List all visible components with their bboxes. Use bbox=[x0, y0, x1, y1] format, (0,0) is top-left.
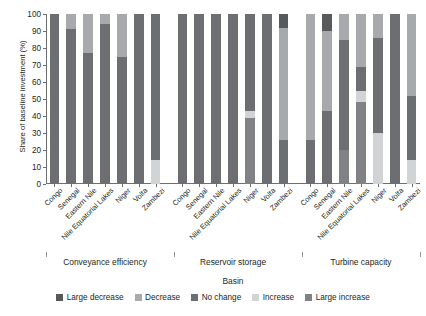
bar-segment bbox=[279, 28, 289, 140]
stacked-bar bbox=[306, 14, 316, 184]
bar-segment bbox=[117, 14, 127, 57]
legend-swatch-icon bbox=[56, 294, 63, 301]
legend-swatch-icon bbox=[191, 294, 198, 301]
bar-segment bbox=[306, 140, 316, 184]
legend-label: No change bbox=[202, 293, 242, 302]
x-axis-category-labels: CongoSenegalEastern NileNile Equatorial … bbox=[46, 186, 420, 252]
group-separator bbox=[420, 252, 421, 257]
y-tick-mark bbox=[43, 31, 46, 32]
legend-item: Large increase bbox=[305, 293, 370, 302]
legend-swatch-icon bbox=[305, 294, 312, 301]
stacked-bar bbox=[178, 14, 188, 184]
bar-segment bbox=[279, 140, 289, 184]
bar-segment bbox=[373, 14, 383, 38]
group-label: Reservoir storage bbox=[174, 257, 292, 267]
stacked-bar bbox=[339, 14, 349, 184]
stacked-bar bbox=[117, 14, 127, 184]
legend-label: Decrease bbox=[145, 293, 180, 302]
bar-segment bbox=[245, 14, 255, 111]
stacked-bar bbox=[262, 14, 272, 184]
y-tick-mark bbox=[43, 48, 46, 49]
bar-segment bbox=[356, 102, 366, 184]
bar-segment bbox=[50, 14, 60, 184]
y-tick-mark bbox=[43, 65, 46, 66]
stacked-bar bbox=[194, 14, 204, 184]
stacked-bar bbox=[356, 14, 366, 184]
bar-segment bbox=[211, 14, 221, 184]
stacked-bar bbox=[50, 14, 60, 184]
legend-label: Large increase bbox=[316, 293, 370, 302]
y-tick-mark bbox=[43, 99, 46, 100]
bar-segment bbox=[151, 14, 161, 160]
stacked-bar-chart: Share of baseline investment (%) 0102030… bbox=[0, 0, 426, 316]
bar-segment bbox=[228, 14, 238, 184]
chart-legend: Large decreaseDecreaseNo changeIncreaseL… bbox=[0, 293, 426, 302]
bar-segment bbox=[356, 67, 366, 91]
bar-segment bbox=[66, 29, 76, 184]
group-label: Turbine capacity bbox=[302, 257, 420, 267]
stacked-bar bbox=[66, 14, 76, 184]
legend-item: Increase bbox=[252, 293, 294, 302]
bar-segment bbox=[407, 96, 417, 161]
stacked-bar bbox=[322, 14, 332, 184]
stacked-bar bbox=[279, 14, 289, 184]
legend-swatch-icon bbox=[135, 294, 142, 301]
bar-segment bbox=[373, 38, 383, 133]
bar-segment bbox=[245, 111, 255, 118]
x-tick-label: Niger bbox=[369, 186, 388, 205]
legend-label: Large decrease bbox=[67, 293, 124, 302]
legend-item: Decrease bbox=[135, 293, 181, 302]
bar-segment bbox=[245, 118, 255, 184]
stacked-bar bbox=[151, 14, 161, 184]
bar-segment bbox=[339, 150, 349, 184]
y-tick-mark bbox=[43, 150, 46, 151]
legend-swatch-icon bbox=[252, 294, 259, 301]
bar-segment bbox=[279, 14, 289, 28]
bar-segment bbox=[100, 14, 110, 24]
bar-segment bbox=[178, 14, 188, 184]
group-label: Conveyance efficiency bbox=[46, 257, 164, 267]
stacked-bar bbox=[83, 14, 93, 184]
bar-segment bbox=[339, 40, 349, 151]
y-axis-title: Share of baseline investment (%) bbox=[18, 17, 27, 177]
bar-segment bbox=[117, 57, 127, 185]
plot-area: 0102030405060708090100 bbox=[46, 14, 420, 184]
bar-segment bbox=[151, 160, 161, 184]
x-axis-group-labels: Conveyance efficiencyReservoir storageTu… bbox=[46, 252, 420, 268]
legend-item: No change bbox=[191, 293, 241, 302]
bar-segment bbox=[407, 160, 417, 184]
stacked-bar bbox=[100, 14, 110, 184]
bar-segment bbox=[356, 14, 366, 67]
bar-segment bbox=[134, 14, 144, 184]
stacked-bar bbox=[407, 14, 417, 184]
legend-label: Increase bbox=[263, 293, 294, 302]
stacked-bar bbox=[390, 14, 400, 184]
y-tick-mark bbox=[43, 82, 46, 83]
y-tick-mark bbox=[43, 14, 46, 15]
bar-segment bbox=[322, 14, 332, 31]
bar-segment bbox=[194, 14, 204, 184]
bar-segment bbox=[66, 14, 76, 29]
bar-segment bbox=[100, 24, 110, 184]
bar-segment bbox=[373, 133, 383, 184]
bar-segment bbox=[306, 14, 316, 140]
bar-segment bbox=[356, 91, 366, 103]
bar-segment bbox=[407, 14, 417, 96]
stacked-bar bbox=[245, 14, 255, 184]
stacked-bar bbox=[211, 14, 221, 184]
y-tick-mark bbox=[43, 133, 46, 134]
stacked-bar bbox=[134, 14, 144, 184]
stacked-bar bbox=[373, 14, 383, 184]
bar-segment bbox=[83, 53, 93, 184]
bar-segment bbox=[262, 14, 272, 184]
bar-segment bbox=[322, 111, 332, 184]
bar-segment bbox=[339, 14, 349, 40]
x-tick-label: Niger bbox=[241, 186, 260, 205]
x-tick-label: Niger bbox=[113, 186, 132, 205]
stacked-bar bbox=[228, 14, 238, 184]
bar-segment bbox=[83, 14, 93, 53]
y-tick-mark bbox=[43, 167, 46, 168]
x-axis-title: Basin bbox=[46, 276, 420, 286]
y-tick-mark bbox=[43, 116, 46, 117]
bar-segment bbox=[322, 31, 332, 111]
